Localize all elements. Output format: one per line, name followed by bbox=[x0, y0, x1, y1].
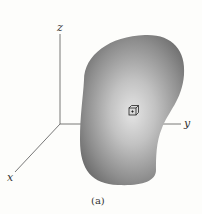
x-axis-label: x bbox=[7, 171, 14, 184]
y-axis-label: y bbox=[183, 117, 191, 130]
figure-canvas: z y x (a) bbox=[0, 0, 202, 214]
x-axis-line bbox=[15, 124, 60, 172]
diagram-svg: z y x (a) bbox=[0, 0, 202, 214]
figure-caption: (a) bbox=[91, 195, 105, 206]
z-axis-label: z bbox=[56, 21, 63, 34]
